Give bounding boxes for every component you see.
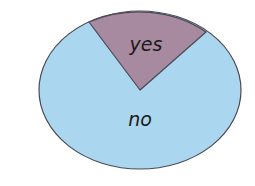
label-no: no — [128, 108, 152, 130]
pie-chart: yes no — [0, 0, 255, 186]
label-yes: yes — [129, 33, 163, 55]
